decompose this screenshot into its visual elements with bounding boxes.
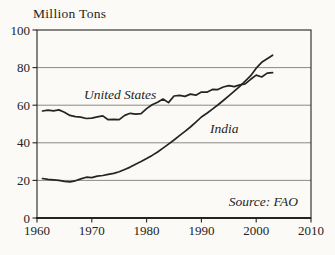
- x-tick-label-2000: 2000: [243, 223, 269, 238]
- y-tick-label-100: 100: [11, 23, 31, 38]
- milk-production-figure: Million Tons 020406080100196019701980199…: [0, 0, 335, 255]
- x-tick-label-2010: 2010: [298, 223, 324, 238]
- x-tick-label-1970: 1970: [79, 223, 105, 238]
- source-note: Source: FAO: [229, 194, 298, 210]
- series-label-united-states: United States: [84, 87, 156, 103]
- y-tick-label-80: 80: [17, 60, 30, 75]
- line-india: [43, 55, 273, 182]
- x-tick-label-1960: 1960: [24, 223, 50, 238]
- line-united-states: [43, 73, 273, 120]
- y-tick-label-20: 20: [17, 173, 30, 188]
- y-tick-label-60: 60: [17, 98, 30, 113]
- plot-border: [37, 30, 311, 218]
- y-tick-label-40: 40: [17, 135, 30, 150]
- x-tick-label-1980: 1980: [134, 223, 160, 238]
- x-tick-label-1990: 1990: [188, 223, 214, 238]
- series-label-india: India: [210, 121, 239, 137]
- plot-area: 020406080100196019701980199020002010: [0, 0, 335, 255]
